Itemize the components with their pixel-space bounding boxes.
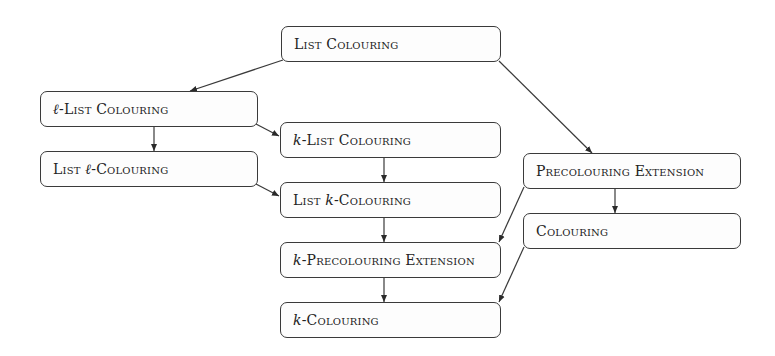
node-label: -Colouring <box>334 192 411 208</box>
node-label: -List Colouring <box>59 101 168 117</box>
node-list-colouring: List Colouring <box>281 26 501 62</box>
node-k-list-colouring: k-List Colouring <box>280 122 501 158</box>
node-variable: k <box>293 252 302 268</box>
node-label-prefix: List <box>293 192 325 208</box>
edge-list-colouring-to-precolouring-extension <box>499 61 592 153</box>
node-k-colouring: k-Colouring <box>280 302 501 338</box>
node-label: -Precolouring Extension <box>302 252 475 268</box>
node-list-k-colouring: List k-Colouring <box>280 182 501 218</box>
edge-l-list-colouring-to-k-list-colouring <box>256 124 279 136</box>
node-label: Colouring <box>536 223 608 239</box>
node-l-list-colouring: ℓ-List Colouring <box>40 91 258 127</box>
node-colouring: Colouring <box>523 213 741 249</box>
node-variable: k <box>293 132 302 148</box>
node-label: -List Colouring <box>302 132 411 148</box>
edge-list-l-colouring-to-list-k-colouring <box>256 184 279 196</box>
node-label: Precolouring Extension <box>536 163 704 179</box>
node-label: List Colouring <box>294 36 398 52</box>
edge-precolouring-extension-to-k-precolouring-extension <box>499 187 524 242</box>
node-list-l-colouring: List ℓ-Colouring <box>40 151 258 187</box>
node-label: -Colouring <box>302 312 379 328</box>
node-precolouring-extension: Precolouring Extension <box>523 153 741 189</box>
edge-colouring-to-k-colouring <box>499 247 524 302</box>
node-label: -Colouring <box>91 161 168 177</box>
node-k-precolouring-extension: k-Precolouring Extension <box>280 242 501 278</box>
node-variable: k <box>293 312 302 328</box>
node-variable: k <box>325 192 334 208</box>
node-label-prefix: List <box>53 161 85 177</box>
edge-list-colouring-to-l-list-colouring <box>190 60 283 91</box>
